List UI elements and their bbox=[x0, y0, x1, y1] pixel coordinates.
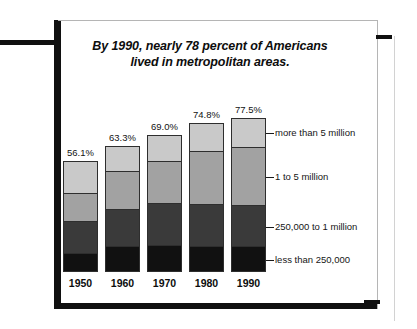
legend-leader-line bbox=[266, 133, 274, 134]
legend-leader-line bbox=[266, 260, 274, 261]
bar-segment bbox=[232, 119, 265, 147]
bar-segment bbox=[64, 193, 97, 222]
bar-total-label-1960: 63.3% bbox=[105, 132, 140, 143]
bar-segment bbox=[64, 253, 97, 271]
bar-segment bbox=[64, 221, 97, 253]
legend-leader-line bbox=[266, 177, 274, 178]
bar-total-label-1980: 74.8% bbox=[189, 109, 224, 120]
x-axis-label-1960: 1960 bbox=[105, 277, 140, 289]
stacked-bar-1990[interactable] bbox=[231, 118, 266, 272]
legend-leader-line bbox=[266, 227, 274, 228]
bar-segment bbox=[106, 246, 139, 271]
stacked-bar-1980[interactable] bbox=[189, 123, 224, 272]
bar-segment bbox=[106, 147, 139, 171]
stacked-bar-1950[interactable] bbox=[63, 161, 98, 272]
bar-segment bbox=[148, 161, 181, 203]
bar-segment bbox=[232, 246, 265, 271]
bar-segment bbox=[190, 151, 223, 204]
legend-item-2[interactable]: 1 to 5 million bbox=[275, 172, 328, 182]
bar-total-label-1990: 77.5% bbox=[231, 104, 266, 115]
x-axis-label-1990: 1990 bbox=[231, 277, 266, 289]
stacked-bar-1960[interactable] bbox=[105, 146, 140, 272]
bar-group-1950: 56.1%1950 bbox=[63, 0, 98, 329]
bar-segment bbox=[148, 245, 181, 271]
bar-total-label-1950: 56.1% bbox=[63, 147, 98, 158]
legend-item-4[interactable]: less than 250,000 bbox=[275, 255, 350, 265]
bar-segment bbox=[232, 205, 265, 246]
bar-segment bbox=[190, 204, 223, 245]
x-axis-label-1970: 1970 bbox=[147, 277, 182, 289]
bar-group-1990: 77.5%1990 bbox=[231, 0, 266, 329]
bar-group-1960: 63.3%1960 bbox=[105, 0, 140, 329]
bar-total-label-1970: 69.0% bbox=[147, 121, 182, 132]
chart-page: By 1990, nearly 78 percent of Americans … bbox=[0, 0, 417, 329]
bar-segment bbox=[232, 147, 265, 205]
x-axis-label-1980: 1980 bbox=[189, 277, 224, 289]
bar-segment bbox=[106, 171, 139, 208]
bar-group-1970: 69.0%1970 bbox=[147, 0, 182, 329]
bar-segment bbox=[190, 124, 223, 151]
bar-segment bbox=[64, 162, 97, 193]
bar-group-1980: 74.8%1980 bbox=[189, 0, 224, 329]
bar-segment bbox=[106, 209, 139, 246]
bar-segment bbox=[190, 246, 223, 271]
x-axis-label-1950: 1950 bbox=[63, 277, 98, 289]
legend-item-1[interactable]: more than 5 million bbox=[275, 128, 355, 138]
bar-segment bbox=[148, 203, 181, 245]
bar-segment bbox=[148, 136, 181, 161]
stacked-bar-plot: 56.1%195063.3%196069.0%197074.8%198077.5… bbox=[0, 0, 417, 329]
stacked-bar-1970[interactable] bbox=[147, 135, 182, 272]
legend-item-3[interactable]: 250,000 to 1 million bbox=[275, 222, 357, 232]
